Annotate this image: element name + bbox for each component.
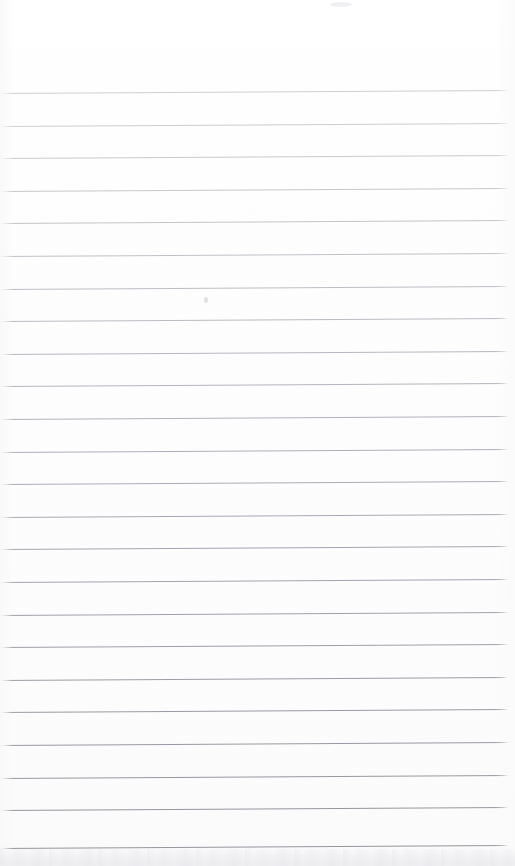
scanned-page: Blank ruled notepad page, scanned. No ha…	[0, 0, 515, 866]
bottom-edge-mottle	[0, 849, 515, 866]
ruled-line	[0, 546, 508, 550]
ruled-line	[0, 416, 508, 420]
ruled-line	[0, 481, 508, 485]
ruled-line	[0, 449, 508, 453]
ruled-line	[0, 742, 508, 746]
ruled-line	[0, 807, 508, 811]
ruled-line	[0, 123, 508, 127]
ruled-lines-group	[0, 0, 515, 866]
ruled-line	[0, 253, 508, 257]
ruled-line	[0, 709, 508, 713]
ruled-line	[0, 220, 508, 224]
ruled-line	[0, 514, 508, 518]
ruled-line	[0, 775, 508, 779]
ruled-line	[0, 286, 508, 290]
faint-smudge-top-center-artifact	[330, 2, 352, 7]
ruled-line	[0, 351, 508, 355]
ruled-line	[0, 155, 508, 159]
ruled-line	[0, 612, 508, 616]
ruled-line	[0, 90, 508, 94]
ruled-line	[0, 644, 508, 648]
ruled-line	[0, 579, 508, 583]
faint-speck-upper-middle-artifact	[204, 297, 208, 303]
ruled-line	[0, 677, 508, 681]
ruled-line	[0, 188, 508, 192]
ruled-line	[0, 383, 508, 387]
ruled-line	[0, 318, 508, 322]
